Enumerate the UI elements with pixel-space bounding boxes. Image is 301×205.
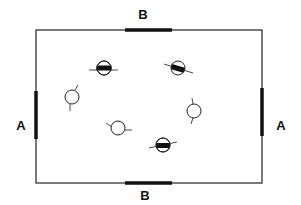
circle-3-open: [65, 85, 79, 111]
circle-4-open: [187, 98, 201, 124]
circle-6-banded: [149, 138, 177, 152]
circle-1-banded: [89, 61, 118, 75]
circle-5-open: [106, 121, 132, 135]
label-bottom: B: [140, 188, 149, 203]
label-left: A: [16, 118, 26, 133]
circle-2-banded: [164, 61, 193, 75]
label-top: B: [138, 7, 147, 22]
label-right: A: [276, 118, 286, 133]
diagram-canvas: B B A A: [0, 0, 301, 205]
